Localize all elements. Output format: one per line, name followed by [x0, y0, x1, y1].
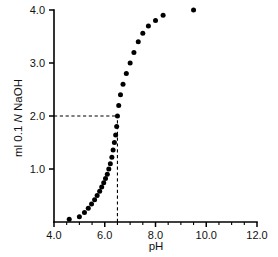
data-point	[97, 189, 102, 194]
y-tick-label-1.0: 1.0	[30, 163, 45, 175]
data-point	[136, 39, 141, 44]
y-axis-tick-labels: 1.02.03.04.0	[30, 4, 45, 175]
data-point	[115, 114, 120, 119]
data-point	[116, 103, 121, 108]
data-point	[67, 217, 72, 222]
y-tick-label-3.0: 3.0	[30, 57, 45, 69]
y-axis-title-suffix: NaOH	[12, 79, 24, 114]
data-point-series	[67, 8, 196, 222]
x-tick-label-12.0: 12.0	[246, 229, 267, 241]
data-point	[82, 210, 87, 215]
svg-text:ml 0.1 N NaOH: ml 0.1 N NaOH	[12, 79, 24, 157]
data-point	[161, 13, 166, 18]
data-point	[77, 214, 82, 219]
data-point	[99, 185, 104, 190]
data-point	[118, 92, 123, 97]
data-point	[86, 206, 91, 211]
data-point	[109, 155, 114, 160]
data-point	[121, 82, 126, 87]
x-axis-title: pH	[149, 240, 164, 252]
data-point	[114, 124, 119, 129]
data-point	[128, 61, 133, 66]
data-point	[124, 71, 129, 76]
x-tick-label-6.0: 6.0	[97, 229, 112, 241]
data-point	[113, 133, 118, 138]
data-point	[140, 31, 145, 36]
y-tick-label-2.0: 2.0	[30, 110, 45, 122]
data-point	[191, 8, 196, 13]
data-point	[146, 23, 151, 28]
y-axis-title-prefix: ml 0.1	[12, 122, 24, 157]
data-point	[108, 161, 113, 166]
data-point	[112, 140, 117, 145]
data-point	[131, 50, 136, 55]
chart-canvas: 4.06.08.010.012.0 1.02.03.04.0 pH ml 0.1…	[0, 0, 278, 257]
data-point	[105, 172, 110, 177]
titration-curve-figure: 4.06.08.010.012.0 1.02.03.04.0 pH ml 0.1…	[0, 0, 278, 257]
data-point	[153, 18, 158, 23]
data-point	[95, 193, 100, 198]
x-tick-label-4.0: 4.0	[46, 229, 61, 241]
x-tick-label-10.0: 10.0	[196, 229, 217, 241]
data-point	[111, 147, 116, 152]
data-point	[89, 201, 94, 206]
data-point	[106, 167, 111, 172]
y-axis-title: ml 0.1 N NaOH	[12, 79, 24, 157]
y-tick-label-4.0: 4.0	[30, 4, 45, 16]
data-point	[92, 197, 97, 202]
